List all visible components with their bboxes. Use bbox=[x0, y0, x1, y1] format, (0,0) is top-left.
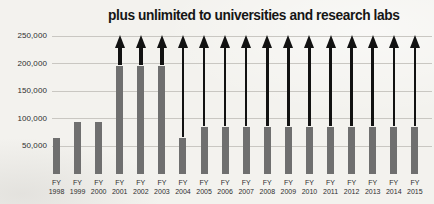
fy-year: 2012 bbox=[341, 187, 363, 196]
x-axis-tick-label: FY2004 bbox=[172, 178, 194, 197]
fy-prefix: FY bbox=[151, 178, 173, 187]
y-axis-tick-label: 100,000 bbox=[0, 114, 47, 123]
visa-cap-bar-chart: plus unlimited to universities and resea… bbox=[0, 0, 434, 204]
up-arrow-shaft bbox=[393, 46, 396, 126]
fy-year: 2009 bbox=[277, 187, 299, 196]
up-arrow-shaft bbox=[245, 46, 248, 126]
y-gridline bbox=[52, 63, 432, 64]
fy-prefix: FY bbox=[383, 178, 405, 187]
bar bbox=[53, 138, 60, 174]
fy-year: 2015 bbox=[404, 187, 426, 196]
fy-year: 2003 bbox=[151, 187, 173, 196]
bar bbox=[306, 127, 313, 174]
fy-prefix: FY bbox=[320, 178, 342, 187]
bar bbox=[264, 127, 271, 174]
y-gridline bbox=[52, 118, 432, 119]
up-arrow-shaft bbox=[308, 46, 311, 126]
bar bbox=[201, 127, 208, 174]
bar bbox=[158, 66, 165, 174]
x-axis-tick-label: FY2009 bbox=[277, 178, 299, 197]
y-axis-tick-label: 200,000 bbox=[0, 59, 47, 68]
x-axis-tick-label: FY2014 bbox=[383, 178, 405, 197]
up-arrow-shaft bbox=[266, 46, 269, 126]
fy-prefix: FY bbox=[341, 178, 363, 187]
bar bbox=[179, 138, 186, 174]
up-arrow-shaft bbox=[160, 46, 164, 65]
x-axis-tick-label: FY2002 bbox=[130, 178, 152, 197]
x-axis-tick-label: FY2012 bbox=[341, 178, 363, 197]
fy-prefix: FY bbox=[46, 178, 68, 187]
fy-prefix: FY bbox=[193, 178, 215, 187]
bar bbox=[222, 127, 229, 174]
fy-year: 2002 bbox=[130, 187, 152, 196]
fy-prefix: FY bbox=[362, 178, 384, 187]
bar bbox=[243, 127, 250, 174]
x-axis-tick-label: FY2013 bbox=[362, 178, 384, 197]
x-axis-tick-label: FY2008 bbox=[256, 178, 278, 197]
x-axis-tick-label: FY2005 bbox=[193, 178, 215, 197]
plot-area: 50,000100,000150,000200,000250,000FY1998… bbox=[0, 0, 434, 204]
bar bbox=[137, 66, 144, 174]
fy-prefix: FY bbox=[67, 178, 89, 187]
x-axis-tick-label: FY2011 bbox=[320, 178, 342, 197]
bar bbox=[327, 127, 334, 174]
fy-prefix: FY bbox=[109, 178, 131, 187]
fy-prefix: FY bbox=[277, 178, 299, 187]
fy-prefix: FY bbox=[256, 178, 278, 187]
up-arrow-shaft bbox=[203, 46, 206, 126]
fy-year: 2007 bbox=[235, 187, 257, 196]
up-arrow-shaft bbox=[287, 46, 290, 126]
y-gridline bbox=[52, 91, 432, 92]
fy-year: 2005 bbox=[193, 187, 215, 196]
up-arrow-shaft bbox=[224, 46, 227, 126]
x-axis-tick-label: FY2003 bbox=[151, 178, 173, 197]
fy-year: 1999 bbox=[67, 187, 89, 196]
x-axis-tick-label: FY1999 bbox=[67, 178, 89, 197]
up-arrow-shaft bbox=[182, 46, 185, 137]
bar bbox=[369, 127, 376, 174]
bar bbox=[74, 122, 81, 174]
fy-year: 2004 bbox=[172, 187, 194, 196]
fy-year: 2014 bbox=[383, 187, 405, 196]
fy-prefix: FY bbox=[298, 178, 320, 187]
x-axis-tick-label: FY2001 bbox=[109, 178, 131, 197]
up-arrow-shaft bbox=[139, 46, 143, 65]
fy-prefix: FY bbox=[214, 178, 236, 187]
y-axis-tick-label: 50,000 bbox=[0, 141, 47, 150]
x-axis-tick-label: FY2007 bbox=[235, 178, 257, 197]
bar bbox=[95, 122, 102, 174]
y-axis-tick-label: 150,000 bbox=[0, 86, 47, 95]
up-arrow-shaft bbox=[414, 46, 417, 126]
bar bbox=[348, 127, 355, 174]
x-axis-tick-label: FY2015 bbox=[404, 178, 426, 197]
x-axis-tick-label: FY1998 bbox=[46, 178, 68, 197]
y-axis-tick-label: 250,000 bbox=[0, 31, 47, 40]
fy-year: 2011 bbox=[320, 187, 342, 196]
up-arrow-shaft bbox=[329, 46, 332, 126]
x-axis-tick-label: FY2000 bbox=[88, 178, 110, 197]
fy-prefix: FY bbox=[130, 178, 152, 187]
fy-prefix: FY bbox=[404, 178, 426, 187]
x-axis-tick-label: FY2010 bbox=[298, 178, 320, 197]
fy-year: 2000 bbox=[88, 187, 110, 196]
x-axis-tick-label: FY2006 bbox=[214, 178, 236, 197]
bar bbox=[285, 127, 292, 174]
fy-prefix: FY bbox=[88, 178, 110, 187]
up-arrow-shaft bbox=[118, 46, 122, 65]
fy-prefix: FY bbox=[172, 178, 194, 187]
fy-year: 2013 bbox=[362, 187, 384, 196]
up-arrow-shaft bbox=[350, 46, 353, 126]
fy-year: 2001 bbox=[109, 187, 131, 196]
fy-prefix: FY bbox=[235, 178, 257, 187]
fy-year: 2006 bbox=[214, 187, 236, 196]
up-arrow-shaft bbox=[371, 46, 374, 126]
bar bbox=[411, 127, 418, 174]
fy-year: 2010 bbox=[298, 187, 320, 196]
fy-year: 1998 bbox=[46, 187, 68, 196]
bar bbox=[390, 127, 397, 174]
fy-year: 2008 bbox=[256, 187, 278, 196]
bar bbox=[116, 66, 123, 174]
